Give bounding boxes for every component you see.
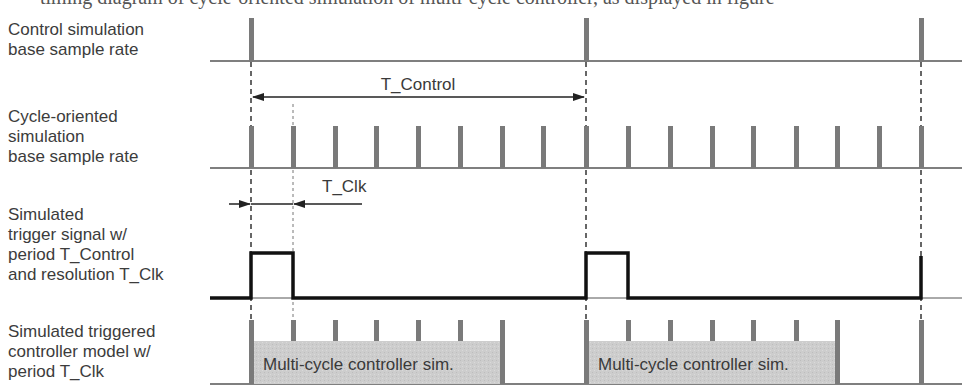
trigger-signal-waveform: [210, 253, 921, 298]
timing-diagram: T_Control T_Clk: [0, 0, 971, 391]
row-cycle-axis: [210, 126, 962, 168]
row-controller-axis: [210, 320, 962, 384]
t-clk-label: T_Clk: [322, 177, 367, 196]
controller-sim-block-1-label: Multi-cycle controller sim.: [263, 355, 454, 374]
t-control-label: T_Control: [381, 75, 456, 94]
controller-sim-block-2-label: Multi-cycle controller sim.: [598, 355, 789, 374]
row-control-axis: [210, 18, 962, 62]
